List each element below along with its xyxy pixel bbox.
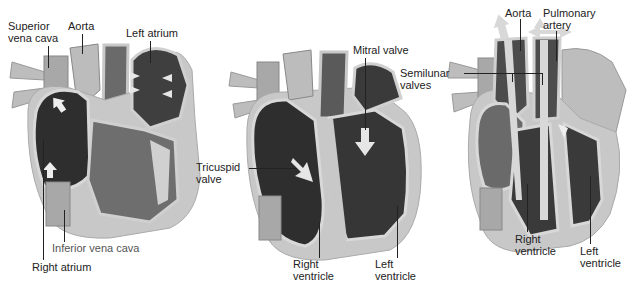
label-pulmonary-artery: Pulmonary artery — [543, 7, 596, 31]
leader-line — [512, 73, 513, 82]
leader-line — [527, 184, 528, 232]
panel-ventricular-filling: Mitral valve Tricuspid valve Right ventr… — [215, 0, 430, 290]
label-aorta: Aorta — [505, 7, 531, 19]
leader-line — [82, 34, 83, 54]
leader-line — [542, 73, 543, 85]
label-right-ventricle: Right ventricle — [293, 258, 334, 282]
label-left-ventricle: Left ventricle — [375, 258, 416, 282]
label-right-atrium: Right atrium — [32, 261, 91, 273]
label-right-ventricle: Right ventricle — [515, 233, 556, 257]
panel-atrial-filling: Superior vena cava Aorta Left atrium Inf… — [0, 0, 215, 290]
label-aorta: Aorta — [68, 20, 94, 32]
leader-line — [590, 176, 591, 244]
label-tricuspid-valve: Tricuspid valve — [196, 161, 240, 185]
leader-line — [397, 206, 398, 258]
leader-line — [249, 168, 297, 169]
leader-line — [64, 210, 65, 242]
label-inferior-vena-cava: Inferior vena cava — [52, 242, 139, 254]
label-superior-vena-cava: Superior vena cava — [8, 20, 58, 44]
leader-line — [319, 222, 320, 258]
leader-line — [150, 41, 151, 63]
label-semilunar-valves: Semilunar valves — [400, 67, 450, 91]
left-ventricle-shape — [564, 124, 602, 226]
leader-line — [43, 140, 44, 260]
leader-line — [520, 19, 521, 51]
label-left-atrium: Left atrium — [126, 27, 178, 39]
leader-line — [365, 58, 366, 130]
label-left-ventricle: Left ventricle — [580, 245, 621, 269]
leader-line — [464, 73, 542, 74]
left-atrium-shape — [132, 49, 188, 128]
leader-line — [48, 46, 49, 68]
panel-ventricular-ejection: Aorta Pulmonary artery Semilunar valves … — [430, 0, 641, 290]
label-mitral-valve: Mitral valve — [353, 44, 409, 56]
leader-line — [556, 31, 557, 61]
